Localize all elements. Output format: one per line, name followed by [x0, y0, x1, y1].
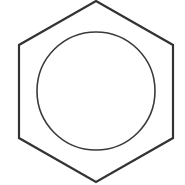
inner-circle — [37, 32, 155, 150]
benzene-ring-diagram — [0, 0, 185, 185]
hexagon-outline — [19, 1, 173, 182]
diagram-canvas — [0, 0, 185, 185]
